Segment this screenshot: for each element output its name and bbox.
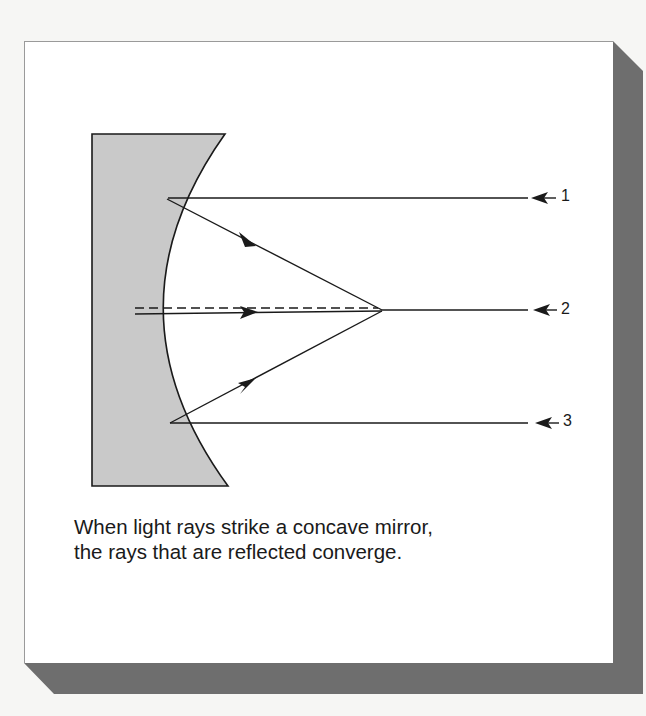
ray-label-3: 3	[563, 413, 572, 429]
reflected-ray-1	[167, 199, 382, 310]
concave-mirror	[92, 134, 228, 486]
reflected-ray-3	[170, 311, 382, 423]
ray-label-2: 2	[561, 301, 570, 317]
figure-caption: When light rays strike a concave mirror,…	[74, 514, 554, 564]
reflected-ray-1-arrow	[239, 232, 256, 247]
caption-line-1: When light rays strike a concave mirror,	[74, 514, 554, 539]
reflected-ray-2	[135, 311, 382, 314]
ray-label-1: 1	[561, 188, 570, 204]
caption-line-2: the rays that are reflected converge.	[74, 539, 554, 564]
concave-mirror-diagram	[0, 0, 646, 716]
